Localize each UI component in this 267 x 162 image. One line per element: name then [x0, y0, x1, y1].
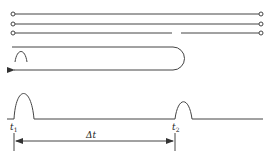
cable-fault-reflection-diagram: t1 t2 Δt [0, 0, 267, 162]
terminal-left-3 [11, 31, 15, 35]
cable-conductors [11, 12, 263, 35]
conductor-3-with-break [11, 31, 263, 35]
reflection-loop [12, 47, 185, 70]
terminal-right-1 [259, 12, 263, 16]
delta-t-label: Δt [85, 130, 96, 140]
terminal-right-3 [259, 31, 263, 35]
terminal-left-1 [11, 12, 15, 16]
terminal-right-2 [259, 22, 263, 26]
conductor-2 [11, 22, 263, 26]
reflection-waveform [7, 94, 263, 120]
conductor-1 [11, 12, 263, 16]
terminal-left-2 [11, 22, 15, 26]
traveling-pulse [15, 52, 27, 63]
t1-label: t1 [10, 122, 17, 133]
t2-label: t2 [172, 122, 180, 133]
